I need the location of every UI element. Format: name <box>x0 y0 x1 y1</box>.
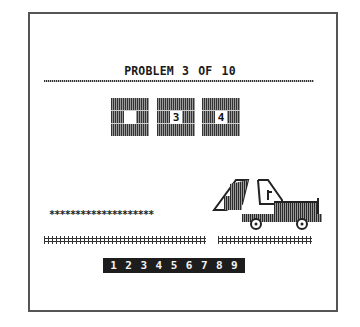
digit-button-5[interactable]: 5 <box>167 258 181 273</box>
digit-button-9[interactable]: 9 <box>227 258 241 273</box>
title-divider <box>44 80 314 82</box>
problem-title: PROBLEM3 OF 10 <box>0 64 360 78</box>
asterisk-trail: ******************** <box>49 209 153 220</box>
rail-track-left <box>44 236 206 244</box>
blank-answer-cell[interactable] <box>124 111 136 124</box>
rail-track-right <box>218 236 312 244</box>
digit-button-6[interactable]: 6 <box>182 258 196 273</box>
sequence-block-2: 3 <box>157 98 195 136</box>
sequence-value: 3 <box>170 111 182 124</box>
digit-button-4[interactable]: 4 <box>152 258 166 273</box>
sequence-block-3: 4 <box>202 98 240 136</box>
digit-button-3[interactable]: 3 <box>137 258 151 273</box>
digit-button-8[interactable]: 8 <box>212 258 226 273</box>
answer-number-bar: 1 2 3 4 5 6 7 8 9 <box>103 258 245 273</box>
sequence-value: 4 <box>215 111 227 124</box>
digit-button-1[interactable]: 1 <box>107 258 121 273</box>
digit-button-7[interactable]: 7 <box>197 258 211 273</box>
problem-counter: 3 OF 10 <box>182 64 236 78</box>
sequence-block-1[interactable] <box>111 98 149 136</box>
digit-button-2[interactable]: 2 <box>122 258 136 273</box>
dump-truck-icon <box>212 178 324 234</box>
problem-label: PROBLEM <box>124 64 174 78</box>
